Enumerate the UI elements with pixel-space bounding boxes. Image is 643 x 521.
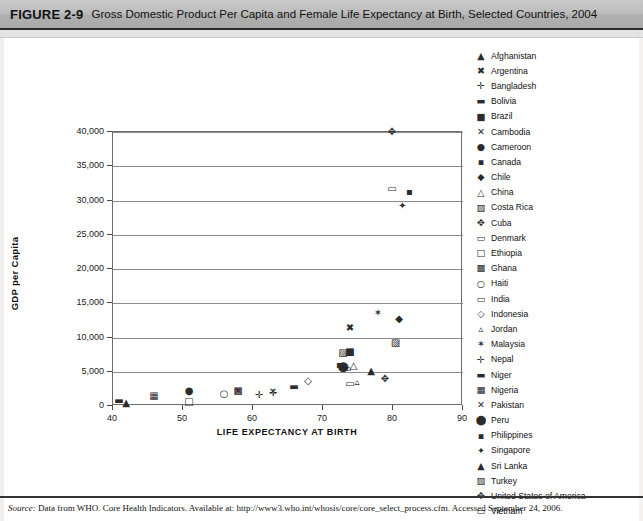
legend-item: ●Cameroon <box>474 139 643 154</box>
legend-item-label: Singapore <box>491 445 530 455</box>
x-tick-mark <box>112 405 113 410</box>
gridline-y <box>113 132 463 133</box>
legend-marker-icon: ▬ <box>474 96 488 106</box>
x-tick-mark <box>252 405 253 410</box>
legend-item: ▬Bolivia <box>474 94 643 109</box>
y-tick-label: 15,000 <box>64 297 104 307</box>
y-tick-label: 40,000 <box>64 126 104 136</box>
legend-marker-icon: △ <box>474 188 488 198</box>
legend-marker-icon: □ <box>474 248 488 258</box>
legend-item-label: Cambodia <box>491 127 530 137</box>
legend-marker-icon: ✥ <box>474 218 488 228</box>
legend-marker-icon: ▭ <box>474 233 488 243</box>
legend-item: ✕Pakistan <box>474 397 643 412</box>
x-tick-mark <box>462 405 463 410</box>
y-tick-mark <box>107 234 112 235</box>
y-tick-mark <box>107 200 112 201</box>
legend-marker-icon: ■ <box>474 112 488 122</box>
legend-item-label: Canada <box>491 157 521 167</box>
legend-item-label: Cuba <box>491 218 512 228</box>
legend-marker-icon: ✦ <box>474 446 488 456</box>
legend-item: ▨Costa Rica <box>474 200 643 215</box>
gridline-y <box>113 201 463 202</box>
x-tick-label: 90 <box>457 413 467 423</box>
legend-item: ✥Cuba <box>474 215 643 230</box>
legend-marker-icon: ▨ <box>474 476 488 486</box>
plot-frame <box>112 131 462 405</box>
legend-item: ▦Nigeria <box>474 382 643 397</box>
source-text: Data from WHO. Core Health Indicators. A… <box>36 503 563 513</box>
legend-marker-icon: ✖ <box>474 66 488 76</box>
legend-item: ▲Afghanistan <box>474 48 643 63</box>
legend-item-label: Peru <box>491 415 509 425</box>
legend-item-label: Jordan <box>491 324 517 334</box>
legend-marker-icon: ⬤ <box>474 415 488 425</box>
legend-item: ■Brazil <box>474 109 643 124</box>
legend-item-label: Ghana <box>491 263 517 273</box>
legend-marker-icon: ▨ <box>474 203 488 213</box>
y-tick-mark <box>107 337 112 338</box>
source-note: Source: Data from WHO. Core Health Indic… <box>8 503 638 513</box>
x-tick-label: 40 <box>107 413 117 423</box>
legend-item: ▵Jordan <box>474 321 643 336</box>
legend-item-label: Haiti <box>491 278 508 288</box>
legend-marker-icon: ▦ <box>474 385 488 395</box>
legend-item: ✛Bangladesh <box>474 78 643 93</box>
legend-marker-icon: ▲ <box>474 51 488 61</box>
legend-item: ⬤Peru <box>474 413 643 428</box>
legend-marker-icon: ◇ <box>474 309 488 319</box>
legend-marker-icon: ✛ <box>474 355 488 365</box>
legend-item-label: Bangladesh <box>491 81 536 91</box>
x-tick-mark <box>392 405 393 410</box>
x-tick-label: 80 <box>387 413 397 423</box>
legend-item-label: Costa Rica <box>491 202 533 212</box>
legend-item: ◇Indonesia <box>474 306 643 321</box>
legend-marker-icon: ▩ <box>474 263 488 273</box>
legend-item: ✶Malaysia <box>474 337 643 352</box>
footer-divider <box>0 496 643 498</box>
x-tick-mark <box>182 405 183 410</box>
gridline-y <box>113 235 463 236</box>
legend-item-label: Niger <box>491 370 512 380</box>
x-axis-title: LIFE EXPECTANCY AT BIRTH <box>112 427 462 437</box>
y-tick-mark <box>107 131 112 132</box>
gridline-y <box>113 303 463 304</box>
x-tick-mark <box>322 405 323 410</box>
legend-item-label: Indonesia <box>491 309 528 319</box>
legend-marker-icon: ▲ <box>474 461 488 471</box>
chart-legend: ▲Afghanistan✖Argentina✛Bangladesh▬Bolivi… <box>474 48 643 519</box>
banner-shadow <box>0 30 643 38</box>
legend-marker-icon: ◆ <box>474 172 488 182</box>
legend-marker-icon: ✕ <box>474 127 488 137</box>
legend-item: ▪Philippines <box>474 428 643 443</box>
legend-item-label: Chile <box>491 172 511 182</box>
y-tick-label: 35,000 <box>64 160 104 170</box>
legend-marker-icon: ▪ <box>474 157 488 167</box>
source-label: Source: <box>8 503 36 513</box>
x-tick-label: 70 <box>317 413 327 423</box>
legend-item-label: Afghanistan <box>491 51 536 61</box>
chart-area: GDP per Capita 05,00010,00015,00020,0002… <box>0 40 470 490</box>
y-tick-label: 10,000 <box>64 332 104 342</box>
legend-item-label: India <box>491 294 510 304</box>
legend-item-label: Cameroon <box>491 142 531 152</box>
y-axis-title: GDP per Capita <box>9 237 20 311</box>
legend-marker-icon: ▬ <box>474 370 488 380</box>
legend-item-label: Pakistan <box>491 400 524 410</box>
figure-title: Gross Domestic Product Per Capita and Fe… <box>92 8 598 20</box>
y-tick-mark <box>107 302 112 303</box>
legend-item-label: Ethiopia <box>491 248 522 258</box>
legend-item-label: Sri Lanka <box>491 461 527 471</box>
y-tick-label: 20,000 <box>64 263 104 273</box>
legend-marker-icon: ● <box>474 142 488 152</box>
legend-item: ▲Sri Lanka <box>474 458 643 473</box>
y-tick-mark <box>107 268 112 269</box>
legend-item: ✖Argentina <box>474 63 643 78</box>
legend-marker-icon: ○ <box>474 279 488 289</box>
legend-item: ✛Nepal <box>474 352 643 367</box>
legend-item: ✕Cambodia <box>474 124 643 139</box>
legend-item-label: Turkey <box>491 476 517 486</box>
y-tick-label: 30,000 <box>64 195 104 205</box>
legend-item-label: China <box>491 187 513 197</box>
gridline-y <box>113 338 463 339</box>
